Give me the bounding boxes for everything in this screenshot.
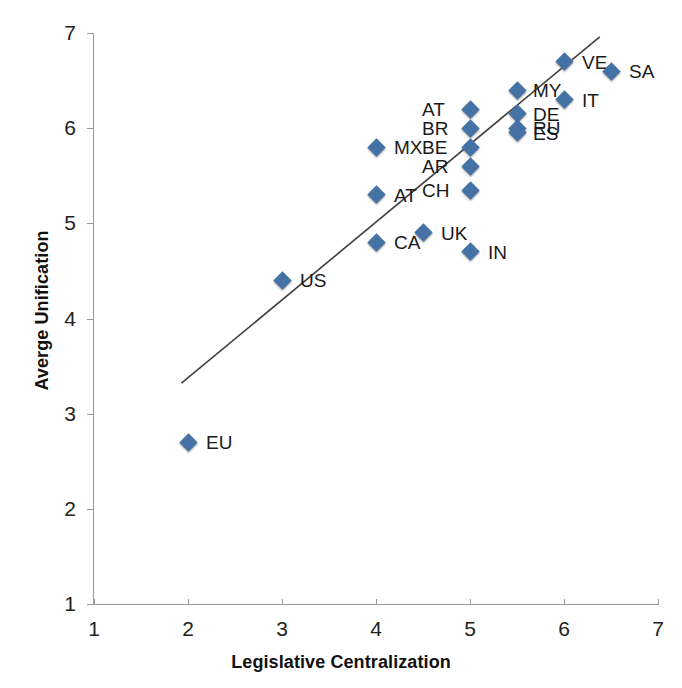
data-point-label: IN [488,243,507,262]
trendline-svg [94,33,658,604]
y-axis-tick-label: 6 [48,117,76,138]
scatter-chart: 1234567 1234567 EUUSMXATCAUKINATBRBEARCH… [0,0,682,688]
y-axis-tick [87,223,94,224]
data-point-label: US [300,271,326,290]
data-point-label: BE [422,138,447,157]
y-axis-tick [87,33,94,34]
x-axis-tick-label: 6 [549,618,579,639]
x-axis-tick [658,599,659,605]
data-point-label: AR [422,157,448,176]
y-axis-title: Averge Unification [32,161,53,461]
y-axis-tick [87,604,94,605]
data-point-label: EU [206,433,232,452]
data-point-label: MX [394,138,423,157]
x-axis-tick-label: 3 [267,618,297,639]
y-axis-tick-label: 7 [48,22,76,43]
data-point-label: AT [394,186,417,205]
y-axis-tick [87,128,94,129]
x-axis-tick-label: 4 [361,618,391,639]
data-point-label: UK [441,224,467,243]
x-axis-title: Legislative Centralization [0,652,682,673]
y-axis-tick-label: 2 [48,498,76,519]
x-axis-tick-label: 5 [455,618,485,639]
data-point-label: CA [394,233,420,252]
plot-area: EUUSMXATCAUKINATBRBEARCHMYDERUESITVESA [94,33,658,604]
data-point-label: IT [582,91,599,110]
x-axis-tick-label: 7 [643,618,673,639]
data-point-label: AT [422,100,445,119]
data-point-label: BR [422,119,448,138]
data-point-label: CH [422,181,449,200]
y-axis-tick-label: 1 [48,593,76,614]
data-point-label: ES [533,124,558,143]
x-axis-tick-label: 2 [173,618,203,639]
y-axis-tick [87,414,94,415]
y-axis-tick [87,319,94,320]
y-axis-tick [87,509,94,510]
data-point-label: SA [629,62,654,81]
x-axis-tick-label: 1 [79,618,109,639]
